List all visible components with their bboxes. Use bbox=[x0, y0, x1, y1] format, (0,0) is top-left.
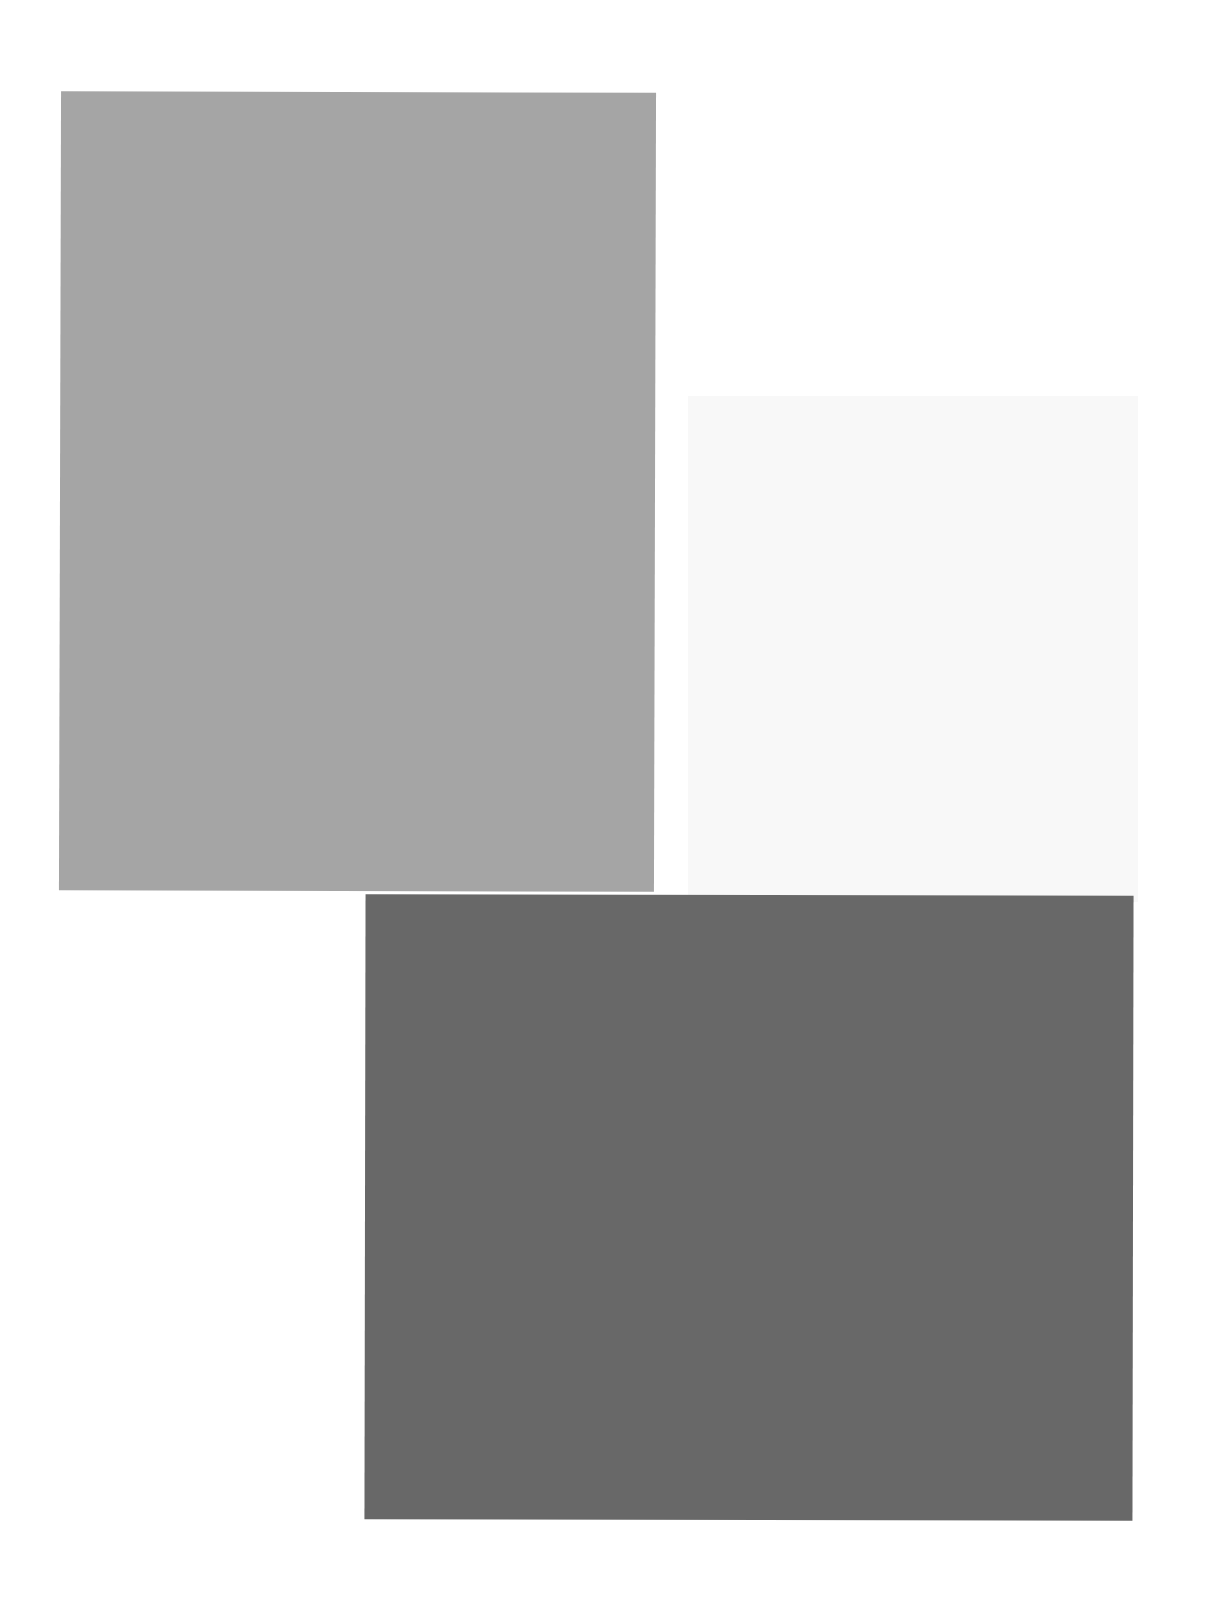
dark-gray-rectangle bbox=[364, 894, 1133, 1520]
medium-gray-rectangle bbox=[59, 91, 656, 892]
light-gray-rectangle bbox=[688, 396, 1138, 902]
